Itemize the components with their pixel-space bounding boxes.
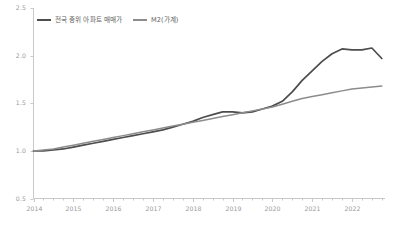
y-tick-label: 1.5 xyxy=(6,99,26,107)
series-line-1 xyxy=(34,86,382,151)
y-tick-label: 2.5 xyxy=(6,4,26,12)
legend-label-m2: M2(가계) xyxy=(151,16,178,24)
y-tick-label: 2.0 xyxy=(6,52,26,60)
legend-item-apartment-price[interactable]: 전국 중위 아파트 매매가 xyxy=(37,16,122,24)
chart-container: 0.51.01.52.02.5 201420152016201720182019… xyxy=(0,0,399,225)
x-tick-label: 2014 xyxy=(18,205,52,213)
y-tick-label: 1.0 xyxy=(6,147,26,155)
x-tick-label: 2016 xyxy=(97,205,131,213)
legend-color-swatch-icon xyxy=(133,19,147,21)
y-tick-label: 0.5 xyxy=(6,195,26,203)
x-tick-label: 2017 xyxy=(137,205,171,213)
x-tick-label: 2022 xyxy=(336,205,370,213)
legend-color-swatch-icon xyxy=(37,19,51,21)
x-tick-label: 2018 xyxy=(177,205,211,213)
chart-legend: 전국 중위 아파트 매매가 M2(가계) xyxy=(37,16,178,24)
chart-plot-area xyxy=(0,0,399,225)
x-tick-marks xyxy=(35,199,383,203)
legend-item-m2[interactable]: M2(가계) xyxy=(133,16,178,24)
series-lines xyxy=(34,48,382,151)
x-tick-label: 2020 xyxy=(256,205,290,213)
x-tick-label: 2021 xyxy=(296,205,330,213)
x-tick-label: 2019 xyxy=(217,205,251,213)
series-line-0 xyxy=(34,48,382,151)
x-tick-label: 2015 xyxy=(57,205,91,213)
legend-label-apartment-price: 전국 중위 아파트 매매가 xyxy=(55,16,122,24)
